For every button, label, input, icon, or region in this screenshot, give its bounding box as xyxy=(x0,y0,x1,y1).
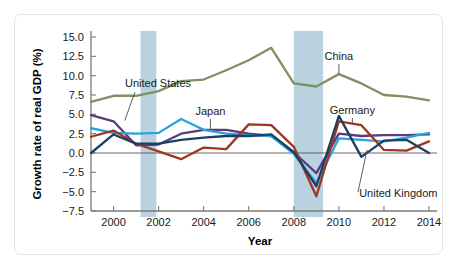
x-tick-label: 2014 xyxy=(417,216,441,228)
x-tick-label: 2004 xyxy=(191,216,215,228)
figure-card: 15.012.510.07.55.02.50.0−2.5−5.0−7.5 200… xyxy=(14,14,443,255)
series-label-china: China xyxy=(324,50,354,62)
y-tick-label: 2.5 xyxy=(69,128,84,140)
x-axis-tick-labels: 20002002200420062008201020122014 xyxy=(101,216,441,228)
series-label-germany: Germany xyxy=(330,104,376,116)
x-axis-ticks xyxy=(114,206,429,211)
y-axis-title: Growth rate of real GDP (%) xyxy=(31,48,43,199)
x-tick-label: 2010 xyxy=(327,216,351,228)
x-tick-label: 2008 xyxy=(282,216,306,228)
series-label-japan: Japan xyxy=(195,105,225,117)
y-tick-label: 7.5 xyxy=(69,89,84,101)
series-label-united-states: United States xyxy=(125,77,192,89)
x-tick-label: 2012 xyxy=(372,216,396,228)
x-tick-label: 2002 xyxy=(146,216,170,228)
y-tick-label: −2.5 xyxy=(62,166,84,178)
y-tick-label: 0.0 xyxy=(69,147,84,159)
recession-bands-group xyxy=(141,31,324,217)
x-tick-label: 2000 xyxy=(101,216,125,228)
y-tick-label: −5.0 xyxy=(62,186,84,198)
x-axis-title: Year xyxy=(248,235,273,247)
y-tick-label: 12.5 xyxy=(63,50,84,62)
y-tick-label: 5.0 xyxy=(69,108,84,120)
series-label-united-kingdom: United Kingdom xyxy=(359,187,437,199)
y-tick-label: 15.0 xyxy=(63,31,84,43)
recession-band-2001 xyxy=(141,31,157,217)
y-axis-tick-labels: 15.012.510.07.55.02.50.0−2.5−5.0−7.5 xyxy=(62,31,84,217)
y-axis-ticks xyxy=(91,37,96,211)
x-tick-label: 2006 xyxy=(236,216,260,228)
gdp-growth-line-chart: 15.012.510.07.55.02.50.0−2.5−5.0−7.5 200… xyxy=(15,15,444,256)
y-tick-label: 10.0 xyxy=(63,70,84,82)
y-tick-label: −7.5 xyxy=(62,205,84,217)
